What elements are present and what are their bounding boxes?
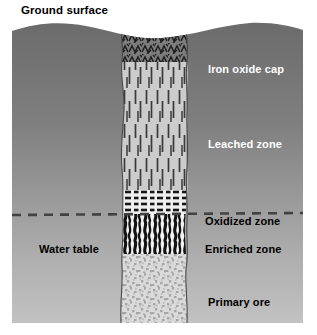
- zone-label-iron-oxide-cap: Iron oxide cap: [208, 63, 284, 75]
- cross-section-panel: Iron oxide cap Leached zone Oxidized zon…: [12, 21, 303, 323]
- supergene-enrichment-diagram: Ground surface: [0, 0, 317, 335]
- water-table-label: Water table: [39, 243, 99, 255]
- ground-surface-label: Ground surface: [21, 4, 108, 16]
- zone-label-primary-ore: Primary ore: [208, 296, 270, 308]
- zone-label-enriched-zone: Enriched zone: [205, 243, 281, 255]
- zone-label-oxidized-zone: Oxidized zone: [205, 215, 280, 227]
- zone-label-leached-zone: Leached zone: [208, 138, 282, 150]
